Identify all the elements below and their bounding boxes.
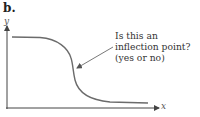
annotation-line-2: inflection point? [115, 41, 200, 52]
annotation-line-1: Is this an [115, 30, 200, 41]
annotation-arrow [77, 47, 113, 68]
annotation-line-3: (yes or no) [115, 52, 200, 63]
annotation-text: Is this an inflection point? (yes or no) [115, 30, 200, 63]
figure-b: b. y x Is this an inflection point? (yes… [0, 0, 200, 117]
